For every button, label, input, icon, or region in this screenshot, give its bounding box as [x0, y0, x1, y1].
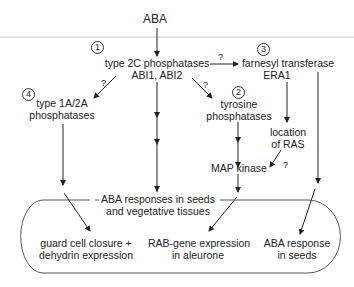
edge-ras-mapk: [270, 150, 281, 167]
node-pp1a2a: type 1A/2A phosphatases: [28, 97, 96, 121]
node-tyrosine: tyrosine phosphatases: [204, 98, 274, 122]
number-1-icon: 1: [91, 41, 104, 54]
node-aba-responses: ABA responses in seeds and vegetative ti…: [99, 193, 217, 217]
node-farnesyl: farnesyl transferase ERA1: [240, 57, 336, 81]
node-aba: ABA: [143, 13, 167, 25]
node-ras: location of RAS: [265, 126, 311, 150]
uncertain-pp2c-pp1a2a: ?: [101, 78, 106, 88]
node-rab: RAB-gene expression in aleurone: [148, 237, 248, 261]
uncertain-pp2c-farnesyl: ?: [218, 52, 223, 62]
uncertain-ras-mapk: ?: [283, 160, 288, 170]
node-mapk: MAP kinase: [211, 162, 267, 174]
node-seed-response: ABA response in seeds: [263, 237, 331, 261]
node-guard-cell: guard cell closure + dehydrin expression: [37, 237, 135, 261]
uncertain-pp2c-tyrosine: ?: [203, 80, 208, 90]
edge-pp2c-tyrosine: [192, 78, 212, 98]
node-pp2c: type 2C phosphatases ABI1, ABI2: [102, 57, 212, 81]
number-3-icon: 3: [257, 43, 270, 56]
